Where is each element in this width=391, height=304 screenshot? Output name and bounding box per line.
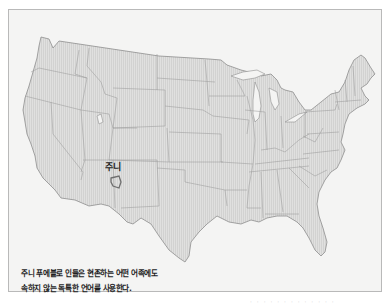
caption-line-2: 속하지 않는 독특한 언어를 사용한다. — [21, 281, 158, 296]
footer-cropped-text: · · · · · · · · · · · · · — [250, 298, 335, 304]
caption-line-1: 주니 푸에블로 인들은 현존하는 어떤 어족에도 — [21, 266, 158, 281]
us-map — [9, 10, 383, 293]
map-caption: 주니 푸에블로 인들은 현존하는 어떤 어족에도 속하지 않는 독특한 언어를 … — [21, 266, 158, 296]
zuni-label: 주니 — [105, 160, 120, 173]
map-frame: 주니 주니 푸에블로 인들은 현존하는 어떤 어족에도 속하지 않는 독특한 언… — [8, 9, 382, 292]
